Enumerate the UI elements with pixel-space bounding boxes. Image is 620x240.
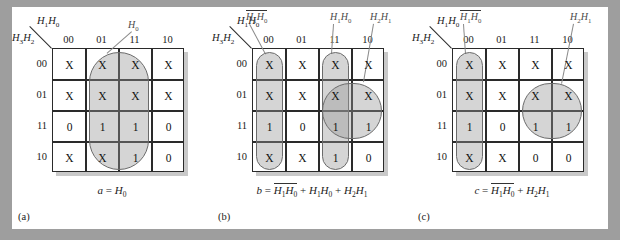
- row-variable-label: H3H2: [12, 32, 34, 46]
- column-header-11: 11: [518, 34, 551, 45]
- row-header-11: 11: [425, 110, 447, 141]
- equation-text: b = H1H0 + H1H0 + H2H1: [257, 184, 368, 196]
- column-header-10: 10: [151, 34, 184, 45]
- kmap-cell: 0: [552, 142, 585, 173]
- row-header-10: 10: [25, 141, 47, 172]
- figure-canvas: H1H0H3H20001111000011110XXXXXXXX0110XX10…: [0, 0, 620, 240]
- row-variable-label: H3H2: [212, 32, 234, 46]
- kmap-cell: X: [453, 80, 486, 111]
- column-header-01: 01: [285, 34, 318, 45]
- kmap-cell: 1: [86, 111, 119, 142]
- column-variable-label: H1H0: [437, 15, 459, 29]
- row-header-00: 00: [425, 48, 447, 79]
- kmap-b: H1H0H3H20001111000011110XXXXXXXX1011XX10…: [212, 7, 412, 229]
- column-variable-label: H1H0: [37, 15, 59, 29]
- group-annotation-1: H1H0: [246, 11, 267, 24]
- column-header-11: 11: [318, 34, 351, 45]
- row-variable-label: H3H2: [412, 32, 434, 46]
- column-header-01: 01: [485, 34, 518, 45]
- kmap-grid: XXXXXXXX1011XX00: [452, 48, 584, 172]
- subfigure-label-a: (a): [18, 211, 30, 222]
- kmap-equation-b: b = H1H0 + H1H0 + H2H1: [212, 184, 412, 199]
- kmap-cell: X: [352, 49, 385, 80]
- kmap-cell: 0: [53, 111, 86, 142]
- column-header-01: 01: [85, 34, 118, 45]
- group-annotation-3: H2H1: [370, 11, 391, 24]
- kmap-cell: X: [552, 80, 585, 111]
- row-header-01: 01: [225, 79, 247, 110]
- kmap-cell: X: [486, 142, 519, 173]
- kmap-cell: X: [486, 49, 519, 80]
- column-header-10: 10: [351, 34, 384, 45]
- subfigure-label-b: (b): [218, 211, 230, 222]
- kmap-cell: X: [119, 80, 152, 111]
- kmap-cell: X: [519, 49, 552, 80]
- kmap-cell: X: [253, 80, 286, 111]
- group-annotation-2: H2H1: [570, 11, 591, 24]
- kmap-cell: X: [119, 49, 152, 80]
- kmap-cell: 0: [486, 111, 519, 142]
- kmap-cell: X: [453, 49, 486, 80]
- kmap-cell: X: [253, 142, 286, 173]
- row-header-10: 10: [425, 141, 447, 172]
- subfigure-label-c: (c): [418, 211, 430, 222]
- row-header-01: 01: [25, 79, 47, 110]
- kmap-c: H1H0H3H20001111000011110XXXXXXXX1011XX00…: [412, 7, 612, 229]
- row-header-11: 11: [25, 110, 47, 141]
- equation-text: c = H1H0 + H2H1: [474, 184, 549, 196]
- kmap-cell: 1: [119, 111, 152, 142]
- kmap-cell: X: [286, 80, 319, 111]
- row-header-00: 00: [225, 48, 247, 79]
- row-header-01: 01: [425, 79, 447, 110]
- kmap-cell: X: [286, 142, 319, 173]
- kmap-cell: 1: [519, 111, 552, 142]
- kmap-cell: X: [152, 80, 185, 111]
- kmap-cell: 0: [152, 142, 185, 173]
- kmap-cell: X: [552, 49, 585, 80]
- column-header-00: 00: [452, 34, 485, 45]
- kmap-cell: 1: [552, 111, 585, 142]
- kmap-cell: 1: [319, 142, 352, 173]
- row-header-00: 00: [25, 48, 47, 79]
- kmap-cell: 1: [453, 111, 486, 142]
- kmap-cell: X: [152, 49, 185, 80]
- kmap-cell: 1: [253, 111, 286, 142]
- figure-sheet: H1H0H3H20001111000011110XXXXXXXX0110XX10…: [12, 7, 608, 229]
- group-annotation-1: H0: [128, 19, 139, 32]
- kmap-cell: X: [519, 80, 552, 111]
- group-annotation-1: H1H0: [460, 11, 481, 24]
- kmap-a: H1H0H3H20001111000011110XXXXXXXX0110XX10…: [12, 7, 212, 229]
- kmap-equation-c: c = H1H0 + H2H1: [412, 184, 612, 199]
- kmap-cell: X: [453, 142, 486, 173]
- kmap-cell: X: [86, 142, 119, 173]
- kmap-cell: X: [319, 80, 352, 111]
- column-header-10: 10: [551, 34, 584, 45]
- row-header-11: 11: [225, 110, 247, 141]
- kmap-cell: X: [286, 49, 319, 80]
- kmap-grid: XXXXXXXX0110XX10: [52, 48, 184, 172]
- kmap-cell: X: [352, 80, 385, 111]
- kmap-cell: X: [53, 142, 86, 173]
- kmap-cell: X: [486, 80, 519, 111]
- kmap-cell: X: [53, 49, 86, 80]
- kmap-equation-a: a = H0: [12, 184, 212, 199]
- kmap-cell: 1: [352, 111, 385, 142]
- kmap-cell: X: [86, 49, 119, 80]
- kmap-cell: X: [319, 49, 352, 80]
- group-annotation-2: H1H0: [330, 11, 351, 24]
- kmap-cell: 0: [286, 111, 319, 142]
- equation-text: a = H0: [98, 184, 127, 196]
- column-header-00: 00: [52, 34, 85, 45]
- kmap-cell: 0: [152, 111, 185, 142]
- row-header-10: 10: [225, 141, 247, 172]
- kmap-cell: X: [53, 80, 86, 111]
- kmap-cell: 1: [119, 142, 152, 173]
- kmap-grid: XXXXXXXX1011XX10: [252, 48, 384, 172]
- kmap-cell: 1: [319, 111, 352, 142]
- kmap-cell: 0: [352, 142, 385, 173]
- kmap-cell: 0: [519, 142, 552, 173]
- kmap-cell: X: [86, 80, 119, 111]
- kmap-cell: X: [253, 49, 286, 80]
